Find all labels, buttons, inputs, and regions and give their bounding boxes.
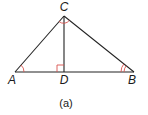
right-angle-mark-d: [57, 65, 64, 72]
vertex-label-a: A: [7, 73, 16, 87]
angle-mark-b-outer: [121, 64, 124, 72]
segment-ac: [15, 16, 64, 72]
angle-mark-b-inner: [124, 66, 126, 72]
vertex-label-b: B: [128, 73, 136, 87]
vertex-label-d: D: [60, 73, 69, 87]
figure-caption: (a): [59, 97, 72, 109]
angle-mark-a: [21, 65, 24, 72]
triangle-diagram: C A D B (a): [0, 0, 148, 115]
segment-cb: [64, 16, 134, 72]
vertex-label-c: C: [60, 0, 69, 14]
